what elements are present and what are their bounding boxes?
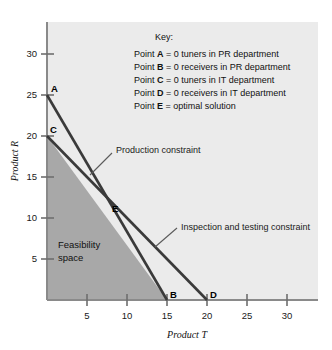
- y-tick-label-15: 15: [26, 171, 37, 182]
- x-axis-title: Product T: [166, 329, 208, 340]
- y-tick-label-30: 30: [26, 48, 37, 59]
- x-tick-label-5: 5: [84, 310, 89, 321]
- y-tick-label-10: 10: [26, 212, 37, 223]
- key-item-e-prefix: Point: [134, 101, 157, 111]
- chart-figure: 5 10 15 20 25 30 5 10 15 20 25 30 Produc…: [0, 0, 332, 350]
- key-item-b: Point B = 0 receivers in PR department: [134, 62, 291, 72]
- key-item-a: Point A = 0 tuners in PR department: [134, 49, 279, 59]
- key-item-c-prefix: Point: [134, 75, 157, 85]
- key-item-a-suffix: = 0 tuners in PR department: [164, 49, 280, 59]
- production-constraint-label: Production constraint: [116, 145, 201, 155]
- svg-text:Point D = 0 receivers in IT de: Point D = 0 receivers in IT department: [134, 88, 286, 98]
- feasibility-space-label-line2: space: [58, 252, 83, 263]
- key-title: Key:: [155, 32, 173, 42]
- svg-text:Point E = optimal solution: Point E = optimal solution: [134, 101, 236, 111]
- key-item-b-suffix: = 0 receivers in PR department: [164, 62, 291, 72]
- key-item-c-suffix: = 0 tuners in IT department: [164, 75, 275, 85]
- x-tick-label-10: 10: [122, 310, 133, 321]
- svg-text:Point C = 0 tuners in IT depar: Point C = 0 tuners in IT department: [134, 75, 275, 85]
- point-label-d: D: [210, 289, 217, 300]
- key-item-d-suffix: = 0 receivers in IT department: [164, 88, 287, 98]
- point-label-a: A: [51, 83, 58, 94]
- key-item-d: Point D = 0 receivers in IT department: [134, 88, 286, 98]
- y-axis-title: Product R: [9, 141, 20, 182]
- svg-text:Point A = 0 tuners in PR depar: Point A = 0 tuners in PR department: [134, 49, 279, 59]
- key-item-e-suffix: = optimal solution: [163, 101, 236, 111]
- chart-svg: 5 10 15 20 25 30 5 10 15 20 25 30 Produc…: [0, 0, 332, 350]
- key-item-e: Point E = optimal solution: [134, 101, 236, 111]
- point-label-c: C: [50, 124, 57, 135]
- y-tick-label-25: 25: [26, 89, 37, 100]
- x-tick-label-15: 15: [162, 310, 173, 321]
- y-tick-label-5: 5: [32, 253, 37, 264]
- x-tick-label-25: 25: [242, 310, 253, 321]
- feasibility-space-label-line1: Feasibility: [58, 239, 100, 250]
- key-item-d-prefix: Point: [134, 88, 157, 98]
- point-label-e: E: [112, 203, 118, 214]
- x-tick-label-30: 30: [282, 310, 293, 321]
- svg-text:Point B = 0 receivers in PR de: Point B = 0 receivers in PR department: [134, 62, 291, 72]
- x-tick-label-20: 20: [202, 310, 213, 321]
- y-tick-label-20: 20: [26, 130, 37, 141]
- key-item-c: Point C = 0 tuners in IT department: [134, 75, 275, 85]
- key-item-a-prefix: Point: [134, 49, 157, 59]
- key-item-b-prefix: Point: [134, 62, 157, 72]
- point-label-b: B: [170, 289, 177, 300]
- inspection-testing-constraint-label: Inspection and testing constraint: [181, 222, 311, 232]
